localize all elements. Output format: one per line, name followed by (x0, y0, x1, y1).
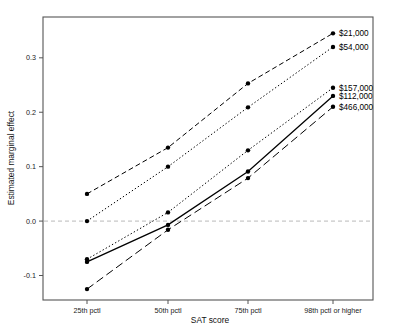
y-tick-label: 0.3 (26, 53, 36, 62)
data-point (166, 164, 170, 168)
data-point (331, 86, 335, 90)
y-tick-label: 0.1 (26, 162, 36, 171)
data-point (246, 169, 250, 173)
data-point (166, 223, 170, 227)
x-axis-title: SAT score (191, 315, 230, 325)
y-axis-title: Estimated marginal effect (6, 110, 16, 205)
data-point (85, 260, 89, 264)
marginal-effect-line-chart: -0.10.00.10.20.3 25th pctl50th pctl75th … (0, 0, 419, 327)
series-label: $21,000 (339, 29, 369, 38)
data-point (85, 219, 89, 223)
data-point (246, 148, 250, 152)
y-tick-label: 0.0 (26, 217, 36, 226)
data-point (85, 287, 89, 291)
data-point (85, 192, 89, 196)
data-point (166, 145, 170, 149)
x-tick-label: 25th pctl (73, 306, 101, 315)
x-tick-label: 75th pctl (234, 306, 262, 315)
chart-container: -0.10.00.10.20.3 25th pctl50th pctl75th … (0, 0, 419, 327)
y-tick-label: 0.2 (26, 108, 36, 117)
data-point (246, 81, 250, 85)
y-tick-label: -0.1 (24, 271, 36, 280)
data-point (246, 176, 250, 180)
data-point (331, 94, 335, 98)
x-tick-label: 50th pctl (154, 306, 182, 315)
data-point (331, 31, 335, 35)
series-label: $112,000 (339, 92, 373, 101)
data-point (166, 228, 170, 232)
data-point (331, 45, 335, 49)
data-point (166, 210, 170, 214)
data-point (246, 105, 250, 109)
series-label: $466,000 (339, 103, 374, 112)
x-tick-label: 98th pctl or higher (304, 306, 362, 315)
data-point (331, 105, 335, 109)
series-label: $54,000 (339, 43, 369, 52)
